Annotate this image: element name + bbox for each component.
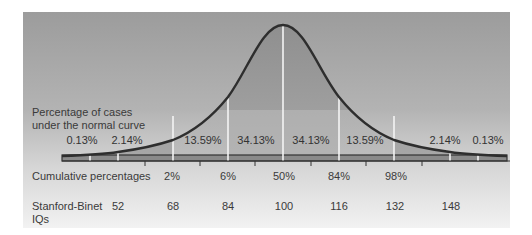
iq-value: 84 — [222, 200, 234, 212]
curve-label: Percentage of cases under the normal cur… — [32, 106, 145, 132]
percent-label: 13.59% — [184, 134, 221, 146]
percent-label: 0.13% — [66, 134, 97, 146]
axis-ticks — [145, 161, 422, 166]
iq-value: 68 — [167, 200, 179, 212]
iq-value: 100 — [275, 200, 293, 212]
cumulative-label: Cumulative percentages — [32, 170, 151, 183]
iq-value: 148 — [442, 200, 460, 212]
iq-label: Stanford-Binet IQs — [32, 200, 102, 226]
cumulative-value: 84% — [328, 170, 350, 182]
cumulative-value: 2% — [164, 170, 180, 182]
cumulative-value: 6% — [220, 170, 236, 182]
curve-label-line2: under the normal curve — [32, 119, 145, 132]
iq-value: 116 — [330, 200, 348, 212]
iq-value: 132 — [386, 200, 404, 212]
iq-value: 52 — [112, 200, 124, 212]
iq-label-line1: Stanford-Binet — [32, 200, 102, 213]
iq-label-line2: IQs — [32, 213, 102, 226]
percent-label: 34.13% — [237, 134, 274, 146]
cumulative-value: 50% — [273, 170, 295, 182]
percent-label: 13.59% — [346, 134, 383, 146]
baseline-bar — [62, 155, 507, 161]
percent-label: 34.13% — [292, 134, 329, 146]
curve-label-line1: Percentage of cases — [32, 106, 145, 119]
percent-label: 2.14% — [111, 134, 142, 146]
percent-label: 0.13% — [472, 134, 503, 146]
percent-label: 2.14% — [429, 134, 460, 146]
cumulative-value: 98% — [385, 170, 407, 182]
